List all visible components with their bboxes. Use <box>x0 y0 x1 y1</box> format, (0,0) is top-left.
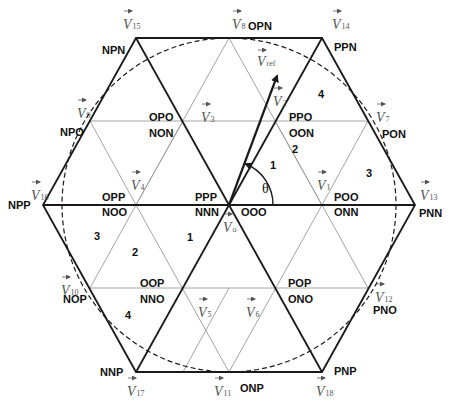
vector-label-v12: V12 <box>375 284 393 305</box>
state-nnn: NNN <box>195 206 219 218</box>
vector-label-vref: Vref <box>257 50 276 69</box>
state-pon: PON <box>382 128 406 140</box>
region-4-sector1: 4 <box>318 88 325 100</box>
svg-text:V8: V8 <box>232 17 246 32</box>
svg-text:V15: V15 <box>123 17 141 32</box>
space-vector-diagram: θ V15 V8 V14 Vref V9 V3 V2 <box>0 0 456 409</box>
state-ppn: PPN <box>334 41 357 53</box>
vref-arrow <box>229 76 277 205</box>
state-oop: OOP <box>140 277 164 289</box>
state-pno: PNO <box>373 304 397 316</box>
state-opn: OPN <box>248 20 272 32</box>
state-nno: NNO <box>140 293 165 305</box>
state-nnp: NNP <box>100 366 123 378</box>
switching-state-labels: NPN OPN PPN NPO OPO NON PPO OON PON NPP … <box>8 20 442 394</box>
region-3-sector4: 3 <box>94 230 100 242</box>
state-pop: POP <box>288 277 311 289</box>
svg-text:V4: V4 <box>131 178 145 193</box>
vector-label-v14: V14 <box>332 11 350 32</box>
region-4-sector4: 4 <box>125 309 132 321</box>
vector-label-v6: V6 <box>246 299 260 320</box>
theta-arc <box>246 164 273 205</box>
region-3-sector1: 3 <box>366 167 372 179</box>
vector-label-v8: V8 <box>232 11 246 32</box>
svg-text:V9: V9 <box>77 106 91 121</box>
vector-label-v3: V3 <box>201 104 215 125</box>
svg-text:V13: V13 <box>420 188 438 203</box>
vector-label-v2: V2 <box>273 88 287 109</box>
state-ppo: PPO <box>289 111 313 123</box>
vector-label-v0: Vo <box>223 214 237 235</box>
svg-text:V11: V11 <box>214 384 231 399</box>
state-pnp: PNP <box>334 365 357 377</box>
svg-text:V7: V7 <box>376 110 390 125</box>
state-opo: OPO <box>149 111 174 123</box>
state-npn: NPN <box>102 44 125 56</box>
state-npo: NPO <box>60 126 84 138</box>
theta-label: θ <box>262 181 269 196</box>
svg-text:V16: V16 <box>31 188 49 203</box>
svg-text:V3: V3 <box>201 110 215 125</box>
vector-label-v18: V18 <box>316 378 334 399</box>
svg-text:V14: V14 <box>332 17 350 32</box>
state-onp: ONP <box>240 382 264 394</box>
vector-label-v17: V17 <box>127 378 145 399</box>
svg-text:V1: V1 <box>317 178 331 193</box>
svg-text:V2: V2 <box>273 94 287 109</box>
vector-label-v16: V16 <box>31 182 49 203</box>
vector-label-v7: V7 <box>376 104 390 125</box>
vector-label-v9: V9 <box>77 100 91 121</box>
region-1-sector1: 1 <box>270 159 276 171</box>
state-ooo: OOO <box>241 206 267 218</box>
vector-label-v5: V5 <box>198 299 212 320</box>
state-non: NON <box>149 127 174 139</box>
state-onn: ONN <box>334 206 359 218</box>
svg-text:Vo: Vo <box>223 220 237 235</box>
state-poo: POO <box>334 191 359 203</box>
svg-text:V5: V5 <box>198 305 212 320</box>
state-noo: NOO <box>102 206 128 218</box>
vector-label-v11: V11 <box>214 378 231 399</box>
svg-text:V18: V18 <box>316 384 334 399</box>
svg-text:Vref: Vref <box>257 54 276 69</box>
svg-text:V12: V12 <box>375 290 393 305</box>
region-2-sector4: 2 <box>132 246 138 258</box>
state-opp: OPP <box>102 191 125 203</box>
state-oon: OON <box>289 127 314 139</box>
state-ppp: PPP <box>195 191 217 203</box>
vector-label-v1: V1 <box>317 172 331 193</box>
region-1-sector4: 1 <box>187 231 193 243</box>
state-npp: NPP <box>8 199 31 211</box>
region-2-sector1: 2 <box>292 143 298 155</box>
vector-label-v4: V4 <box>131 172 145 193</box>
vector-label-v13: V13 <box>420 182 438 203</box>
svg-text:V6: V6 <box>246 305 260 320</box>
state-ono: ONO <box>288 293 314 305</box>
vector-label-v15: V15 <box>123 11 141 32</box>
state-nop: NOP <box>63 293 87 305</box>
svg-text:V17: V17 <box>127 384 145 399</box>
state-pnn: PNN <box>419 207 442 219</box>
